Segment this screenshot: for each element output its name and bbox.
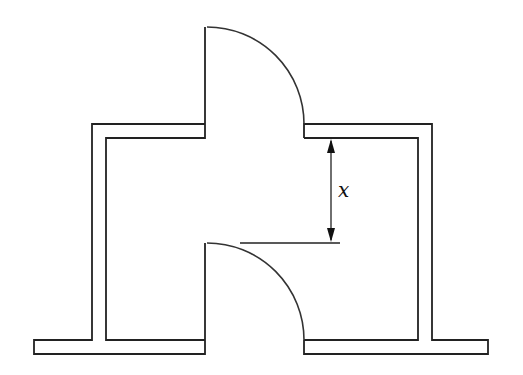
- diagram-canvas: x: [0, 0, 523, 375]
- floor-plan-drawing: [0, 0, 523, 375]
- upper-door-swing-arc: [207, 27, 304, 124]
- arrowhead-down-icon: [327, 228, 335, 242]
- dimension-label: x: [338, 178, 349, 202]
- arrowhead-up-icon: [327, 139, 335, 153]
- lower-door-swing-arc: [207, 243, 304, 340]
- left-wall-outer: [34, 124, 205, 354]
- left-wall-inner: [106, 124, 205, 340]
- right-wall-inner: [304, 138, 418, 340]
